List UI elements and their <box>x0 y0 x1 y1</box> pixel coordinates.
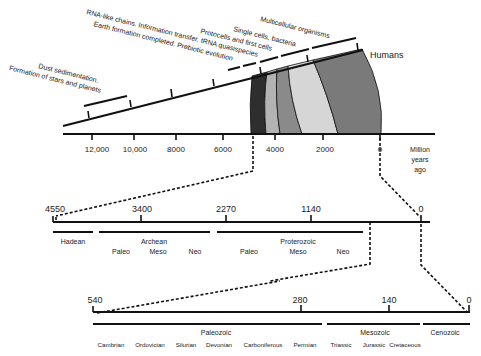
top-timeline: Dust sedimentation. Formation of stars a… <box>8 8 435 217</box>
event-label-dust: Dust sedimentation. Formation of stars a… <box>8 55 104 94</box>
period-label: Devonian <box>206 341 233 348</box>
tick-label: 0 <box>418 204 423 214</box>
tick-label: 140 <box>381 295 396 305</box>
era-label: Meso <box>289 248 306 255</box>
tick-label: 0 <box>466 295 471 305</box>
tick-label: 4550 <box>45 204 65 214</box>
tick-label: 6000 <box>214 145 232 154</box>
era-label: Paleo <box>240 248 258 255</box>
era-cenozoic: Cenozoic <box>430 329 460 336</box>
svg-text:Million: Million <box>410 146 430 153</box>
tick-label: 12,000 <box>85 145 110 154</box>
svg-text:years: years <box>411 156 429 164</box>
tick-label: 8000 <box>167 145 185 154</box>
svg-text:ago: ago <box>414 166 426 174</box>
zoom-connector-left-3 <box>97 281 280 313</box>
geologic-timeline-diagram: Dust sedimentation. Formation of stars a… <box>0 0 481 356</box>
tick-label: 4000 <box>266 145 284 154</box>
tick-label: 540 <box>87 295 102 305</box>
eon-archean: Archean <box>141 238 167 245</box>
era-label: Meso <box>149 248 166 255</box>
tick-label: 280 <box>292 295 307 305</box>
precambrian-timeline: 4550 3400 2270 1140 0 Hadean Archean Pal… <box>45 204 467 312</box>
period-label: Carboniferous <box>244 341 283 348</box>
tick-label: 10,000 <box>123 145 148 154</box>
zoom-connector-right-2 <box>421 224 467 312</box>
svg-text:RNA-like chains. Information t: RNA-like chains. Information transfer. t… <box>86 8 260 59</box>
axis-unit-label: Million years ago <box>410 146 430 174</box>
period-label: Triassic <box>330 341 351 348</box>
zoom-connector-left-2 <box>270 222 370 281</box>
era-label: Neo <box>189 248 202 255</box>
eon-proterozoic: Proterozoic <box>280 238 316 245</box>
tick-label: 1140 <box>301 204 320 214</box>
period-label: Permian <box>293 341 317 348</box>
period-label: Cretaceous <box>389 341 421 348</box>
era-label: Neo <box>337 248 350 255</box>
event-label-humans: Humans <box>370 50 404 60</box>
period-label: Ordovician <box>135 341 165 348</box>
period-label: Cambrian <box>98 341 125 348</box>
phanerozoic-timeline: 540 280 140 0 Paleozoic Mesozoic Cenozoi… <box>87 281 471 348</box>
era-label: Paleo <box>112 248 130 255</box>
era-paleozoic: Paleozoic <box>201 329 232 336</box>
period-label: Silurian <box>176 341 197 348</box>
tick-label: 2000 <box>316 145 334 154</box>
era-mesozoic: Mesozoic <box>360 329 390 336</box>
period-label: Jurassic <box>363 341 386 348</box>
eon-hadean: Hadean <box>61 238 86 245</box>
tick-label: 2270 <box>216 204 236 214</box>
tick-label: 3400 <box>132 204 152 214</box>
event-bar-dust <box>84 96 127 106</box>
